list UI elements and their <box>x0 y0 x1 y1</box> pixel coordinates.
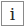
info-icon: i <box>10 6 15 23</box>
info-button[interactable]: i <box>1 1 24 26</box>
